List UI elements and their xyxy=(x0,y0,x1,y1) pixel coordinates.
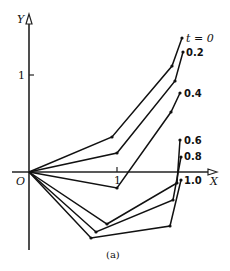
vertex-dot xyxy=(180,36,183,39)
vertex-dot xyxy=(173,79,176,82)
curve-label-t0: t = 0 xyxy=(186,32,214,45)
curve-label-1.0: 1.0 xyxy=(184,175,202,186)
curve-label-0.8: 0.8 xyxy=(184,151,202,162)
vertex-dot xyxy=(115,151,118,154)
vertex-dot xyxy=(168,224,171,227)
origin-label: O xyxy=(16,175,25,188)
y-axis-arrow-icon xyxy=(26,14,32,24)
y-tick-label: 1 xyxy=(18,69,25,82)
curve-3 xyxy=(29,140,180,224)
curve-label-0.6: 0.6 xyxy=(184,135,202,146)
vertex-dot xyxy=(169,110,172,113)
curve-0 xyxy=(29,38,182,172)
polyline-diagram: Y 1 O 1 X t = 0 0.2 0.4 0.6 0.8 1.0 (a) xyxy=(0,0,230,271)
vertex-dot xyxy=(175,181,178,184)
vertex-dot xyxy=(178,91,181,94)
vertex-dot xyxy=(178,138,181,141)
vertex-dot xyxy=(170,64,173,67)
vertex-dot xyxy=(89,236,92,239)
vertex-dot xyxy=(181,50,184,53)
curves-group xyxy=(29,38,183,238)
vertex-dot xyxy=(171,198,174,201)
figure-caption: (a) xyxy=(106,249,120,260)
curve-label-0.2: 0.2 xyxy=(186,47,204,58)
vertex-dot xyxy=(115,186,118,189)
vertex-dot xyxy=(94,230,97,233)
y-axis-label: Y xyxy=(17,13,26,26)
vertex-dot xyxy=(179,178,182,181)
vertex-dot xyxy=(179,155,182,158)
curve-1 xyxy=(29,52,183,172)
vertex-dot xyxy=(105,222,108,225)
x-axis-label: X xyxy=(209,175,219,188)
vertex-dot xyxy=(110,135,113,138)
curve-label-0.4: 0.4 xyxy=(184,88,202,99)
